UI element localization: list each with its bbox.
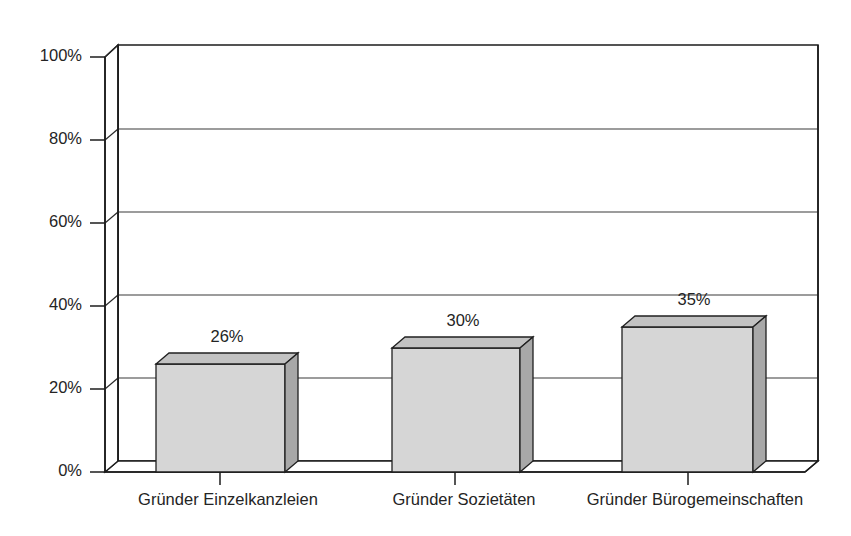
y-axis-tick-labels: 0% 20% 40% 60% 80% 100% — [40, 46, 83, 479]
y-tick-label-40: 40% — [49, 295, 82, 313]
bar-front-face-0[interactable] — [156, 364, 285, 472]
bar-side-face-0 — [285, 353, 298, 472]
bar-top-face-0 — [156, 353, 298, 364]
plot-left-wall — [105, 45, 118, 472]
bar-top-face-1 — [392, 337, 533, 348]
bar-front-face-2[interactable] — [622, 327, 753, 472]
y-tick-label-100: 100% — [40, 46, 83, 64]
bar-group-1[interactable] — [392, 337, 533, 472]
y-axis-ticks — [90, 57, 105, 472]
bar-top-face-2 — [622, 316, 766, 327]
y-tick-label-20: 20% — [49, 378, 82, 396]
bar-side-face-1 — [520, 337, 533, 472]
chart-canvas: 0% 20% 40% 60% 80% 100% 26% 30% — [0, 0, 851, 536]
bar-group-2[interactable] — [622, 316, 766, 472]
bar-value-label-1: 30% — [446, 311, 479, 329]
bar-side-face-2 — [753, 316, 766, 472]
x-tick-label-1: Gründer Sozietäten — [392, 490, 535, 508]
bar-value-label-0: 26% — [210, 327, 243, 345]
x-tick-label-0: Gründer Einzelkanzleien — [138, 490, 318, 508]
y-tick-label-60: 60% — [49, 212, 82, 230]
y-tick-label-80: 80% — [49, 129, 82, 147]
x-axis-category-labels: Gründer Einzelkanzleien Gründer Sozietät… — [138, 490, 803, 508]
bar-chart: 0% 20% 40% 60% 80% 100% 26% 30% — [0, 0, 851, 536]
bar-value-label-2: 35% — [677, 290, 710, 308]
bar-front-face-1[interactable] — [392, 348, 520, 472]
bar-group-0[interactable] — [156, 353, 298, 472]
x-axis-ticks — [220, 472, 688, 485]
y-tick-label-0: 0% — [58, 461, 82, 479]
x-tick-label-2: Gründer Bürogemeinschaften — [587, 490, 803, 508]
